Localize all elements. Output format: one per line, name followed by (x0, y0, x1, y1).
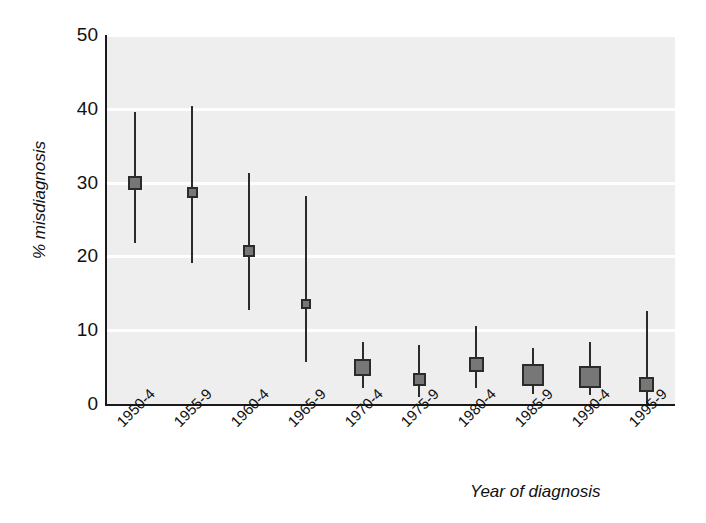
error-bar (418, 345, 420, 397)
gridline (107, 329, 675, 332)
data-point-marker (128, 176, 142, 190)
gridline (107, 34, 675, 37)
data-point-marker (301, 299, 311, 309)
y-axis-tick-labels: 01020304050 (50, 0, 98, 523)
data-point-marker (413, 373, 426, 386)
y-tick-label: 0 (54, 394, 98, 413)
data-point-marker (522, 364, 544, 386)
y-axis-line (105, 35, 107, 406)
x-axis-title: Year of diagnosis (470, 482, 600, 502)
y-axis-title: % misdiagnosis (30, 100, 50, 300)
data-point-marker (469, 357, 484, 372)
error-bar (305, 196, 307, 362)
data-point-marker (243, 245, 255, 257)
error-bar (248, 173, 250, 310)
y-tick-label: 30 (54, 173, 98, 192)
data-point-marker (579, 366, 601, 388)
data-point-marker (187, 187, 198, 198)
y-tick-label: 50 (54, 25, 98, 44)
error-bar (191, 106, 193, 263)
data-point-marker (354, 359, 371, 376)
plot-area (107, 35, 675, 404)
y-tick-label: 10 (54, 320, 98, 339)
y-tick-label: 20 (54, 246, 98, 265)
y-tick-label: 40 (54, 99, 98, 118)
chart-figure: % misdiagnosis 01020304050 1950-41955-91… (0, 0, 706, 523)
